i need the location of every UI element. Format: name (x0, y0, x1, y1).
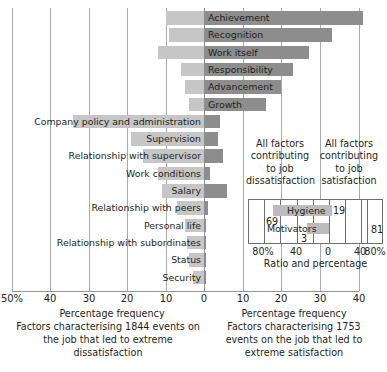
bar-left (189, 98, 204, 112)
bar-left (185, 80, 204, 94)
inset-gridline-60-right (367, 200, 368, 243)
table-row: Security (0, 269, 387, 286)
table-row: Growth (0, 96, 387, 113)
inset-label-motivators: Motivators (267, 223, 317, 234)
axis-tick-30-right: 30 (302, 293, 338, 305)
axis-tick-10-left: 10 (148, 293, 184, 305)
herzberg-two-factor-chart: Achievement Recognition Work itself Resp… (0, 0, 387, 372)
bar-right (204, 184, 227, 198)
axis-tick-0: 0 (186, 293, 222, 305)
row-label: Growth (205, 97, 242, 112)
inset-heading-right-text: All factors contributing to job satisfac… (320, 138, 378, 186)
inset-gridline-80-left (264, 200, 265, 243)
axis-tick-40-left: 40 (32, 293, 68, 305)
inset-tick-40-left: 40 (281, 246, 311, 257)
inset-value-motivators-right: 81 (371, 224, 383, 235)
row-label: Recognition (205, 27, 263, 42)
row-label: Status (0, 252, 201, 267)
bar-left (158, 46, 204, 60)
axis-tick-20-right: 20 (263, 293, 299, 305)
inset-label-hygiene: Hygiene (287, 205, 326, 216)
inset-heading-right: All factors contributing to job satisfac… (316, 138, 382, 188)
inset-heading-left: All factors contributing to job dissatis… (246, 138, 314, 188)
row-label: Security (0, 270, 201, 285)
bar-right (204, 219, 206, 233)
bar-right (204, 149, 223, 163)
bar-right (204, 115, 220, 129)
row-label: Work itself (205, 45, 258, 60)
inset-axis-label: Ratio and percentage (248, 258, 383, 269)
row-label: Achievement (205, 10, 270, 25)
table-row: Achievement (0, 9, 387, 26)
row-label: Salary (0, 183, 201, 198)
bar-left (181, 63, 204, 77)
inset-value-motivators-left: 3 (301, 233, 307, 244)
row-label: Personal life (0, 218, 201, 233)
inset-summary-chart: Hygiene 69 19 Motivators 3 81 (248, 199, 383, 244)
row-label: Relationship with subordinates (0, 235, 201, 250)
axis-tick-30-left: 30 (71, 293, 107, 305)
table-row: Company policy and administration (0, 113, 387, 130)
bar-right (204, 236, 206, 250)
left-caption-line1: Factors characterising 1844 events on (12, 321, 204, 334)
bar-right (204, 271, 206, 285)
bar-left (166, 11, 204, 25)
bar-right (204, 132, 218, 146)
right-caption-line2: events on the job that led to (210, 334, 378, 347)
row-label: Supervision (0, 131, 201, 146)
table-row: Work itself (0, 44, 387, 61)
bar-right (204, 201, 208, 215)
left-axis-title: Percentage frequency (20, 308, 204, 321)
axis-tick-50-left: 50% (0, 293, 30, 305)
right-caption-line1: Factors characterising 1753 (210, 321, 378, 334)
axis-tick-10-right: 10 (225, 293, 261, 305)
row-label: Advancement (205, 79, 273, 94)
axis-tick-40-right: 40 (341, 293, 377, 305)
inset-gridline-40-right (361, 200, 362, 243)
table-row: Recognition (0, 26, 387, 43)
inset-value-hygiene-right: 19 (333, 205, 345, 216)
left-caption-line2: the job that led to extreme (12, 334, 204, 347)
axis-tick-20-left: 20 (109, 293, 145, 305)
inset-heading-left-text: All factors contributing to job dissatis… (246, 138, 315, 186)
right-caption-line3: extreme satisfaction (210, 347, 378, 360)
inset-bar-hygiene-right (329, 205, 332, 216)
inset-tick-80-right: 80% (360, 246, 387, 257)
row-label: Relationship with peers (0, 200, 201, 215)
axis-baseline (12, 291, 359, 292)
row-label: Responsibility (205, 62, 273, 77)
bar-right (204, 253, 206, 267)
right-axis-title: Percentage frequency (210, 308, 378, 321)
inset-tick-80-left: 80% (248, 246, 278, 257)
row-label: Work conditions (0, 166, 201, 181)
left-caption-line3: dissatisfaction (12, 347, 204, 360)
row-label: Relationship with supervisor (0, 148, 201, 163)
table-row: Responsibility (0, 61, 387, 78)
row-label: Company policy and administration (0, 114, 201, 129)
bar-right (204, 167, 210, 181)
bar-left (169, 28, 204, 42)
inset-tick-0: 0 (313, 246, 343, 257)
table-row: Advancement (0, 78, 387, 95)
